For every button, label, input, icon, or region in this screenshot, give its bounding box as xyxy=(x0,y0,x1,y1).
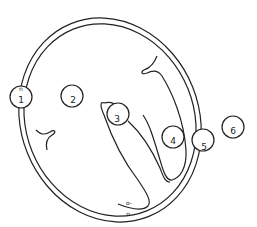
marker-3-label: 3 xyxy=(114,114,120,124)
marker-4: 4 xyxy=(162,126,184,148)
marker-1-label: 1 xyxy=(18,95,24,105)
marker-4-label: 4 xyxy=(170,136,176,146)
bottom-label-lower: o xyxy=(126,210,130,217)
marker-5-label: 5 xyxy=(201,142,207,152)
upper-right-baffle xyxy=(142,56,186,180)
marker-2-label: 2 xyxy=(70,95,76,105)
bottom-label-upper: o- xyxy=(126,199,132,206)
marker-6-label: 6 xyxy=(230,126,236,136)
marker-1: n 1 xyxy=(10,85,32,108)
left-baffle xyxy=(36,130,55,150)
marker-5: 5 xyxy=(192,129,214,152)
diagram-canvas: o- o n 1 2 3 4 5 6 xyxy=(0,0,257,227)
marker-2: 2 xyxy=(61,85,83,107)
marker-3: 3 xyxy=(107,103,129,125)
marker-1-sublabel: n xyxy=(19,85,23,92)
marker-6: 6 xyxy=(222,116,244,138)
